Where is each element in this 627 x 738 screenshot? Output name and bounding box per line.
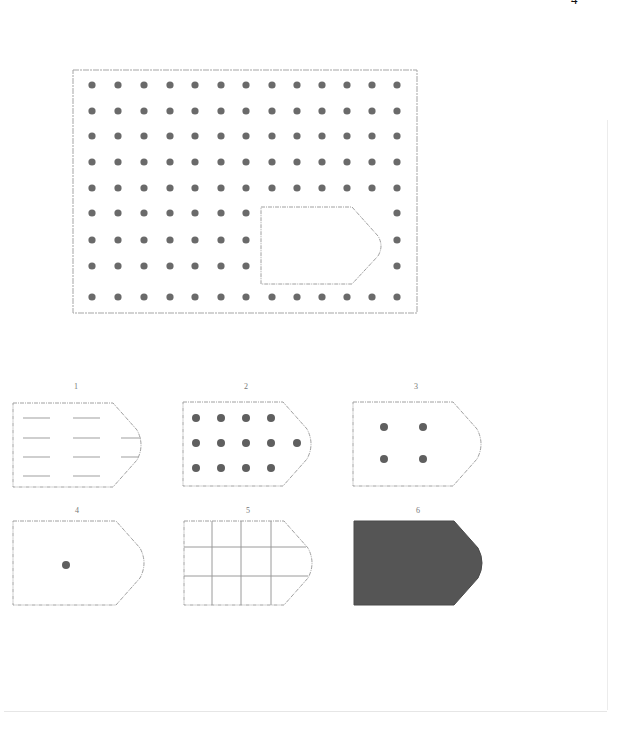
option-3-four-dots[interactable] (353, 402, 481, 486)
option-4-label: 4 (67, 506, 87, 515)
matrix-dot (114, 262, 121, 269)
matrix-dot (217, 209, 224, 216)
matrix-dot (140, 293, 147, 300)
matrix-dot (242, 132, 249, 139)
matrix-dot (217, 262, 224, 269)
matrix-dot (217, 184, 224, 191)
matrix-dot (191, 262, 198, 269)
matrix-dot (166, 293, 173, 300)
matrix-dot (343, 158, 350, 165)
matrix-dot (393, 236, 400, 243)
matrix-dot (166, 158, 173, 165)
matrix-dot (393, 107, 400, 114)
matrix-dot (140, 158, 147, 165)
option-6-solid-fill[interactable] (354, 521, 482, 605)
matrix-dot (393, 293, 400, 300)
matrix-dot (368, 158, 375, 165)
matrix-dot (268, 81, 275, 88)
matrix-dot (114, 236, 121, 243)
matrix-dot (393, 184, 400, 191)
matrix-panel (73, 70, 417, 313)
option-4-single-dot[interactable] (13, 521, 144, 605)
matrix-dot (242, 236, 249, 243)
matrix-dot (343, 107, 350, 114)
option-1-label: 1 (66, 382, 86, 391)
matrix-dot (217, 107, 224, 114)
matrix-dot (191, 158, 198, 165)
matrix-dot (242, 158, 249, 165)
option-6-label: 6 (408, 506, 428, 515)
matrix-dot (268, 107, 275, 114)
matrix-dot (242, 293, 249, 300)
matrix-dot (318, 107, 325, 114)
matrix-dot (166, 132, 173, 139)
matrix-dot (343, 132, 350, 139)
matrix-dot (343, 184, 350, 191)
matrix-dot (140, 262, 147, 269)
matrix-dot (166, 262, 173, 269)
option-2-dense-dots[interactable] (183, 402, 311, 486)
matrix-dot (217, 236, 224, 243)
matrix-dot (393, 262, 400, 269)
matrix-dot (114, 107, 121, 114)
option-5-label: 5 (238, 506, 258, 515)
matrix-dot (368, 107, 375, 114)
matrix-dot (114, 132, 121, 139)
matrix-dot (293, 132, 300, 139)
matrix-dot (166, 184, 173, 191)
matrix-dot (114, 81, 121, 88)
matrix-dot (368, 81, 375, 88)
matrix-dot (88, 158, 95, 165)
matrix-dot (191, 81, 198, 88)
matrix-dot (318, 132, 325, 139)
matrix-dot (217, 81, 224, 88)
matrix-dot (166, 81, 173, 88)
matrix-dot (166, 107, 173, 114)
matrix-dot (114, 209, 121, 216)
matrix-dot (293, 293, 300, 300)
matrix-dot (393, 158, 400, 165)
matrix-dot (242, 184, 249, 191)
matrix-dot (242, 209, 249, 216)
matrix-dot (217, 132, 224, 139)
matrix-dot (88, 236, 95, 243)
matrix-dot (318, 158, 325, 165)
option-5-grid-lines[interactable] (184, 521, 312, 605)
matrix-dot (140, 132, 147, 139)
matrix-dot (217, 158, 224, 165)
scan-edge-bottom (4, 711, 607, 712)
matrix-dot (191, 132, 198, 139)
option-1-dashes[interactable] (13, 403, 141, 487)
matrix-dot (140, 107, 147, 114)
matrix-dot (191, 209, 198, 216)
matrix-dot (242, 107, 249, 114)
matrix-dot (268, 132, 275, 139)
matrix-dot (166, 236, 173, 243)
matrix-dot (368, 293, 375, 300)
matrix-dot (88, 132, 95, 139)
option-3-label: 3 (406, 382, 426, 391)
matrix-dot (140, 209, 147, 216)
matrix-dot (191, 184, 198, 191)
matrix-dot (393, 132, 400, 139)
matrix-dot (318, 81, 325, 88)
matrix-dot (393, 81, 400, 88)
matrix-dot (343, 81, 350, 88)
matrix-dot (114, 293, 121, 300)
matrix-dot (318, 184, 325, 191)
matrix-dot (114, 184, 121, 191)
matrix-dot (88, 262, 95, 269)
matrix-dot (88, 293, 95, 300)
matrix-dot (88, 81, 95, 88)
matrix-dot (393, 209, 400, 216)
matrix-dot (293, 184, 300, 191)
matrix-dot (293, 81, 300, 88)
matrix-dot (318, 293, 325, 300)
option-2-label: 2 (236, 382, 256, 391)
matrix-dot (191, 293, 198, 300)
matrix-dot (191, 107, 198, 114)
puzzle-figure (0, 0, 627, 738)
matrix-dot (368, 184, 375, 191)
matrix-dot (140, 184, 147, 191)
matrix-dot (88, 184, 95, 191)
